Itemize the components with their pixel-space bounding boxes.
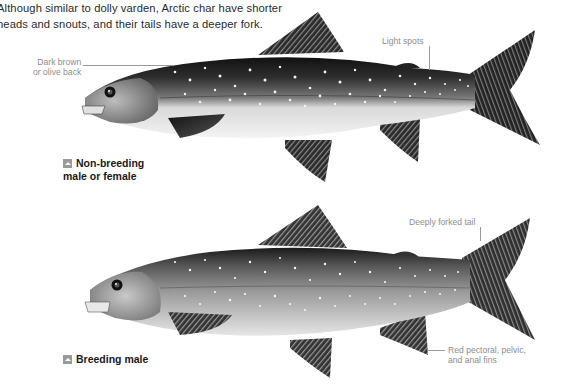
caudal-fin xyxy=(468,30,540,145)
leader-line-fins xyxy=(427,350,445,351)
callout-red-fins: Red pectoral, pelvic, and anal fins xyxy=(448,345,526,365)
label-non-breeding: Non-breeding male or female xyxy=(63,157,144,183)
pelvic-fin xyxy=(290,338,332,378)
callout-forked-tail: Deeply forked tail xyxy=(409,217,475,227)
anal-fin xyxy=(380,118,420,162)
label-breeding-male: Breeding male xyxy=(63,353,148,366)
leader-line-back xyxy=(83,65,173,66)
dorsal-fin xyxy=(258,12,344,55)
triangle-up-icon xyxy=(63,355,72,364)
fish-illustration-non-breeding xyxy=(80,10,560,190)
callout-back-color: Dark brown or olive back xyxy=(33,57,81,77)
dorsal-fin xyxy=(258,205,347,248)
leader-line-spots xyxy=(429,46,430,70)
callout-light-spots: Light spots xyxy=(382,36,424,46)
pelvic-fin xyxy=(285,140,332,182)
caudal-fin xyxy=(462,218,535,340)
triangle-up-icon xyxy=(63,159,72,168)
leader-line-tail xyxy=(480,227,481,241)
